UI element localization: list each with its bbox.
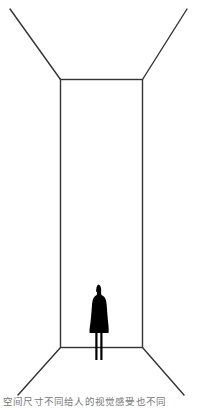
person-silhouette [90, 284, 109, 360]
floor-line-left [18, 348, 61, 396]
ceiling-line-left [10, 9, 61, 80]
floor-line-right [143, 348, 185, 396]
figure-caption: 空间尺寸不同给人的视觉感受也不同 [3, 396, 198, 408]
ceiling-line-right [143, 9, 188, 80]
